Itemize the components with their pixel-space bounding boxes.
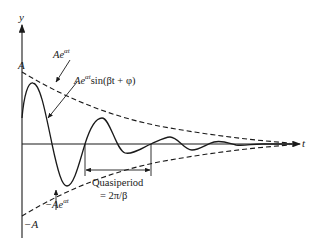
curve-pointer	[48, 82, 77, 118]
upper-envelope-curve	[22, 72, 290, 143]
upper-envelope-exponent: αt	[64, 47, 70, 55]
lower-envelope-exponent: αt	[63, 197, 69, 205]
curve-label-sine: sin(βt + φ)	[91, 75, 136, 86]
curve-label: Aeαtsin(βt + φ)	[74, 76, 135, 87]
amplitude-negative-label: −A	[24, 219, 38, 230]
quasiperiod-formula: = 2π/β	[100, 191, 127, 202]
y-axis-label: y	[19, 12, 24, 23]
diagram-canvas	[0, 0, 318, 249]
upper-envelope-pointer	[56, 60, 70, 82]
t-axis-label: t	[302, 138, 305, 149]
quasiperiod-label: Quasiperiod	[92, 178, 143, 189]
curve-label-base: Ae	[74, 75, 85, 86]
upper-envelope-base: Ae	[53, 49, 64, 60]
lower-envelope-base: −Ae	[45, 199, 63, 210]
amplitude-positive-label: A	[18, 60, 25, 71]
damped-oscillation-curve	[22, 83, 292, 186]
lower-envelope-label: −Aeαt	[45, 200, 69, 211]
damped-oscillation-figure: y t A −A Aeαt Aeαtsin(βt + φ) −Aeαt Quas…	[0, 0, 318, 249]
upper-envelope-label: Aeαt	[53, 50, 70, 61]
curve-label-exponent: αt	[85, 73, 91, 81]
